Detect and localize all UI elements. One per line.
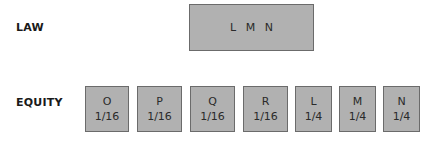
equity-box-share: 1/16	[200, 109, 225, 124]
equity-box-name: Q	[208, 94, 217, 109]
equity-box-share: 1/16	[95, 109, 120, 124]
equity-box-share: 1/16	[253, 109, 278, 124]
law-box: L M N	[189, 4, 314, 51]
law-label: LAW	[16, 21, 44, 34]
equity-box-n: N 1/4	[383, 86, 420, 132]
equity-box-r: R 1/16	[243, 86, 288, 132]
equity-box-share: 1/4	[349, 109, 367, 124]
equity-box-name: M	[353, 94, 363, 109]
equity-box-share: 1/4	[393, 109, 411, 124]
equity-box-name: R	[262, 94, 270, 109]
equity-box-l: L 1/4	[295, 86, 332, 132]
equity-box-p: P 1/16	[137, 86, 182, 132]
law-box-text: L M N	[230, 20, 273, 35]
equity-box-name: L	[310, 94, 316, 109]
equity-box-o: O 1/16	[85, 86, 129, 132]
equity-box-m: M 1/4	[339, 86, 376, 132]
equity-box-name: N	[397, 94, 405, 109]
equity-box-name: O	[103, 94, 112, 109]
equity-label: EQUITY	[16, 96, 63, 109]
equity-box-name: P	[156, 94, 163, 109]
equity-box-share: 1/16	[147, 109, 172, 124]
equity-box-share: 1/4	[305, 109, 323, 124]
equity-box-q: Q 1/16	[190, 86, 235, 132]
